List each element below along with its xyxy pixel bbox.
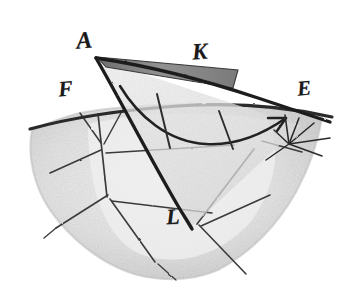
crack-lower-left-tail <box>44 228 56 238</box>
engraving-figure: A K F E L <box>0 0 341 288</box>
vertex-label-e: E <box>296 77 312 99</box>
vertex-label-l: L <box>165 206 180 229</box>
vertex-label-a: A <box>75 27 93 52</box>
figure-canvas <box>0 0 341 288</box>
vertex-label-f: F <box>57 77 74 100</box>
vertex-label-k: K <box>191 39 208 63</box>
